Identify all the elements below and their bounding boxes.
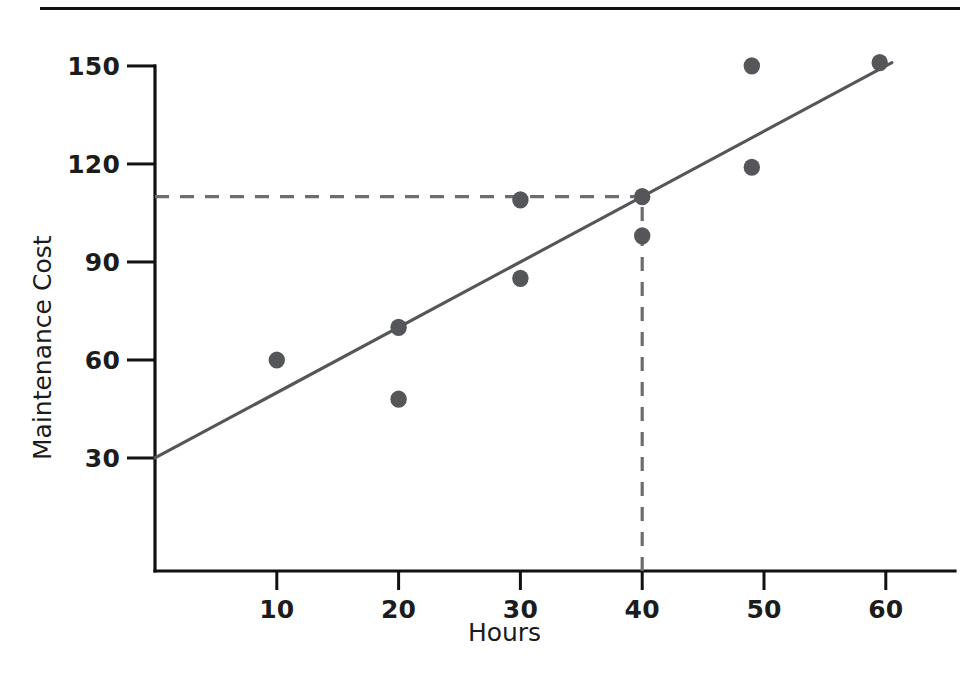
x-tick-label: 40: [625, 597, 660, 622]
y-axis-title: Maintenance Cost: [30, 235, 55, 460]
x-tick-marks: [277, 570, 886, 590]
x-axis-title: Hours: [18, 620, 973, 645]
y-tick-label: 150: [60, 53, 120, 78]
data-point: [512, 191, 528, 208]
data-point: [744, 159, 760, 176]
plot-canvas: [0, 0, 973, 683]
data-point: [744, 57, 760, 74]
x-tick-label: 10: [259, 597, 294, 622]
data-point: [512, 270, 528, 287]
y-tick-label: 30: [60, 445, 120, 470]
guide-lines-group: [155, 197, 642, 571]
data-point: [872, 54, 888, 71]
data-point: [634, 227, 650, 244]
y-tick-label: 60: [60, 347, 120, 372]
regression-line: [155, 63, 892, 458]
data-point: [269, 351, 285, 368]
y-tick-label: 120: [60, 151, 120, 176]
x-tick-label: 50: [746, 597, 781, 622]
axes-group: [155, 66, 955, 571]
data-point: [390, 391, 406, 408]
x-tick-label: 60: [868, 597, 903, 622]
data-point: [390, 319, 406, 336]
y-tick-marks: [127, 66, 156, 458]
data-point: [634, 188, 650, 205]
trend-line-group: [155, 63, 892, 458]
y-tick-label: 90: [60, 249, 120, 274]
x-tick-label: 20: [381, 597, 416, 622]
scatter-plot-figure: 306090120150 102030405060 Maintenance Co…: [0, 0, 973, 683]
